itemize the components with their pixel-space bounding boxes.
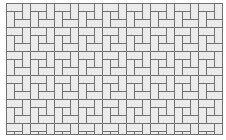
tile-pattern: [6, 3, 223, 135]
pinwheel-tile-svg: [6, 3, 223, 135]
